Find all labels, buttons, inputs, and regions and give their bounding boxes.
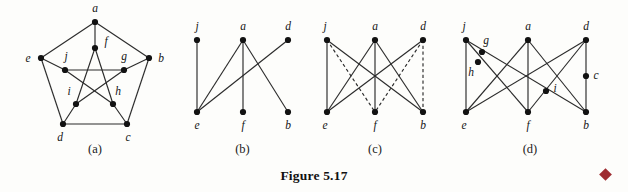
vertex-label-a: a (525, 20, 531, 32)
vertex-e (463, 109, 469, 115)
edge-a-e (41, 22, 95, 58)
vertex-b (146, 55, 152, 61)
vertex-label-b: b (583, 119, 589, 131)
panel-c-graph: jadefb (305, 0, 445, 160)
vertex-f (525, 109, 531, 115)
vertex-f (92, 45, 98, 51)
edge-a-e (197, 40, 243, 112)
edge-a-b (243, 40, 288, 112)
vertex-h (110, 101, 116, 107)
vertex-label-j: j (62, 50, 67, 63)
vertex-e (324, 109, 330, 115)
vertex-j (463, 37, 469, 43)
vertex-label-j: j (193, 20, 198, 33)
figure-caption: Figure 5.17 (0, 168, 628, 184)
panel-d: jadefbghic (d) (440, 0, 620, 160)
vertex-d (420, 37, 426, 43)
vertex-label-a: a (372, 20, 378, 32)
vertex-label-d: d (285, 20, 291, 32)
vertex-a (240, 37, 246, 43)
panel-c-label: (c) (305, 142, 445, 157)
vertex-e (38, 55, 44, 61)
vertex-c (124, 121, 130, 127)
vertex-label-f: f (241, 119, 246, 132)
panel-a: aebdcfjgih (a) (0, 0, 190, 160)
vertex-d (60, 121, 66, 127)
edge-c-h (113, 104, 127, 124)
vertex-d (583, 37, 589, 43)
vertex-b (285, 109, 291, 115)
vertex-label-e: e (461, 119, 466, 131)
vertex-d (285, 37, 291, 43)
edge-f-i (76, 48, 95, 104)
vertex-e (194, 109, 200, 115)
panel-b-graph: jadefb (175, 0, 310, 160)
vertex-label-b: b (420, 119, 426, 131)
vertex-label-f: f (104, 35, 109, 48)
vertex-g (121, 67, 127, 73)
vertex-label-f: f (373, 119, 378, 132)
vertex-j (194, 37, 200, 43)
figure-container: aebdcfjgih (a) jadefb (b) jadefb (c) jad… (0, 0, 628, 192)
vertex-c (583, 73, 589, 79)
panel-a-label: (a) (0, 142, 190, 157)
vertex-label-g: g (483, 34, 489, 47)
vertex-label-j: j (460, 20, 465, 33)
vertex-label-e: e (322, 119, 327, 131)
vertex-i (543, 88, 549, 94)
edge-b-c (127, 58, 149, 124)
edge-d-i (63, 104, 76, 124)
vertex-f (372, 109, 378, 115)
panel-b-label: (b) (175, 142, 310, 157)
panel-c: jadefb (c) (305, 0, 445, 160)
edge-j-h (65, 70, 113, 104)
vertex-label-d: d (583, 20, 589, 32)
panel-b: jadefb (b) (175, 0, 310, 160)
vertex-b (420, 109, 426, 115)
vertex-label-d: d (420, 20, 426, 32)
vertex-a (372, 37, 378, 43)
vertex-label-b: b (158, 52, 164, 64)
vertex-label-a: a (240, 20, 246, 32)
vertex-label-h: h (115, 85, 121, 97)
panel-d-label: (d) (440, 142, 620, 157)
vertex-label-a: a (92, 2, 98, 14)
vertex-j (62, 67, 68, 73)
panel-d-graph: jadefbghic (440, 0, 620, 160)
vertex-a (92, 19, 98, 25)
vertex-j (324, 37, 330, 43)
vertex-h (475, 59, 481, 65)
edge-f-h (95, 48, 113, 104)
vertex-label-i: i (67, 85, 70, 97)
vertex-label-g: g (121, 50, 127, 63)
vertex-label-j: j (321, 20, 326, 33)
vertex-label-h: h (468, 66, 474, 78)
vertex-label-c: c (593, 69, 598, 81)
vertex-label-e: e (194, 119, 199, 131)
vertex-f (240, 109, 246, 115)
vertex-label-e: e (25, 52, 30, 64)
vertex-b (583, 109, 589, 115)
vertex-i (73, 101, 79, 107)
vertex-g (479, 49, 485, 55)
panel-a-graph: aebdcfjgih (0, 0, 190, 160)
vertex-label-i: i (553, 82, 556, 94)
vertex-label-f: f (526, 119, 531, 132)
vertex-label-b: b (285, 119, 291, 131)
vertex-a (525, 37, 531, 43)
